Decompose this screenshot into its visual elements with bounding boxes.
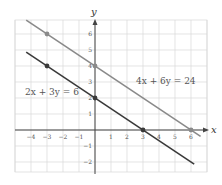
svg-text:−1: −1 [75, 133, 84, 140]
y-axis-label: y [90, 6, 97, 17]
svg-text:5: 5 [173, 133, 177, 140]
equation-label-2x-3y-6: 2x + 3y = 6 [25, 87, 79, 97]
data-point [45, 64, 50, 69]
svg-text:1: 1 [109, 133, 113, 140]
svg-text:−2: −2 [83, 158, 92, 165]
x-axis-label: x [211, 124, 217, 135]
svg-text:6: 6 [88, 30, 92, 37]
svg-text:3: 3 [141, 133, 145, 140]
data-point [45, 32, 50, 37]
svg-text:5: 5 [88, 46, 92, 53]
data-point [93, 96, 98, 101]
svg-text:−1: −1 [83, 142, 92, 149]
graph-chart: −4−3−2−1123456−2−1123456 x y 4x + 6y = 2… [0, 0, 222, 185]
data-point [189, 128, 194, 133]
svg-text:−3: −3 [43, 133, 52, 140]
data-point [141, 128, 146, 133]
svg-text:1: 1 [88, 110, 92, 117]
svg-text:−4: −4 [27, 133, 36, 140]
equation-label-4x-6y-24: 4x + 6y = 24 [136, 76, 196, 86]
svg-text:6: 6 [189, 133, 193, 140]
svg-text:2: 2 [125, 133, 129, 140]
data-point [93, 64, 98, 69]
svg-text:3: 3 [88, 78, 92, 85]
svg-text:−2: −2 [59, 133, 68, 140]
